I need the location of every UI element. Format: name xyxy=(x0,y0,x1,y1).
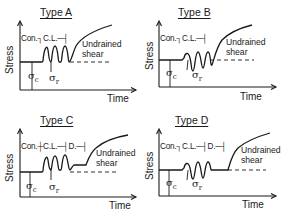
sigma-r-tick xyxy=(187,60,188,70)
y-axis-label: Stress xyxy=(5,46,15,74)
phase-markers: Con.┼C.L.─┤D.─┤ xyxy=(21,143,88,151)
undrained-shear-label: Undrained shear xyxy=(82,40,122,59)
sigma-c-label: σc xyxy=(28,71,39,84)
sigma-c-label: σc xyxy=(166,68,177,81)
sigma-r-label: σr xyxy=(192,179,202,192)
x-axis-label: Time xyxy=(242,200,264,210)
undrained-shear-label: Undrained shear xyxy=(96,149,136,168)
panel-type-d: Type D Stress Time Con.┐C.L.─┤D.─┤ Undra… xyxy=(142,108,284,216)
sigma-r-tick xyxy=(187,170,188,180)
undrained-shear-label: Undrained shear xyxy=(226,38,266,57)
panel-type-a: Type A Stress Time Con.┐C.L.─┤ Undrained… xyxy=(0,0,142,108)
panel-title: Type A xyxy=(40,7,72,18)
x-axis-label: Time xyxy=(107,94,129,104)
sigma-r-label: σr xyxy=(49,182,59,195)
x-axis-label: Time xyxy=(109,201,131,211)
y-axis-label: Stress xyxy=(145,152,155,180)
sigma-c-label: σc xyxy=(26,181,37,194)
phase-markers: Con.┐C.L.─┤ xyxy=(160,35,208,43)
sigma-c-label: σc xyxy=(166,178,177,191)
panel-title: Type D xyxy=(175,115,208,126)
undrained-shear-label: Undrained shear xyxy=(241,146,281,165)
y-axis-label: Stress xyxy=(5,154,15,182)
y-axis-label: Stress xyxy=(145,42,155,70)
sigma-r-label: σr xyxy=(49,73,59,86)
sigma-r-label: σr xyxy=(192,70,202,83)
panel-title: Type C xyxy=(40,115,73,126)
panel-type-c: Type C Stress Time Con.┼C.L.─┤D.─┤ Undra… xyxy=(0,108,142,216)
panel-title: Type B xyxy=(178,7,211,18)
phase-markers: Con.┐C.L.─┤ xyxy=(21,35,69,43)
panel-type-b: Type B Stress Time Con.┐C.L.─┤ Undrained… xyxy=(142,0,284,108)
phase-markers: Con.┐C.L.─┤D.─┤ xyxy=(160,143,227,151)
x-axis-label: Time xyxy=(240,92,262,102)
